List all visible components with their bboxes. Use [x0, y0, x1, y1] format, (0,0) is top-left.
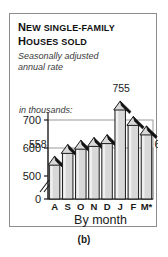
y-tick-label-0: 0	[35, 193, 41, 205]
y-tick-label-700: 700	[23, 114, 41, 126]
x-tick-label-J: J	[118, 201, 123, 212]
bar-highlight	[142, 135, 144, 198]
x-tick-label-F: F	[130, 201, 136, 212]
y-tick-labels-group: 7006005000	[23, 114, 41, 205]
x-tick-label-O: O	[77, 201, 84, 212]
figure-caption: (b)	[0, 234, 168, 245]
bar-highlight	[77, 149, 79, 198]
bar-highlight	[50, 165, 52, 198]
x-axis-title-group: By month	[74, 213, 127, 227]
value-label-J: 755	[112, 82, 130, 94]
bars-group	[48, 101, 157, 199]
value-label-A: 558	[29, 138, 47, 150]
figure-panel-b: NEW SINGLE-FAMILY HOUSES SOLD Seasonally…	[0, 0, 168, 257]
x-tick-label-D: D	[104, 201, 111, 212]
bar-chart: 7006005000 558755666 ASONDJFM* By month	[10, 14, 158, 228]
y-tick-label-500: 500	[23, 170, 41, 182]
chart-panel: NEW SINGLE-FAMILY HOUSES SOLD Seasonally…	[9, 13, 157, 227]
value-label-M*: 666	[154, 138, 158, 150]
x-tick-label-N: N	[91, 201, 98, 212]
x-axis-title: By month	[74, 213, 127, 227]
x-tick-label-A: A	[51, 201, 58, 212]
x-tick-label-S: S	[65, 201, 71, 212]
bar-highlight	[103, 144, 105, 198]
bar-highlight	[90, 146, 92, 198]
bar-highlight	[129, 125, 131, 198]
bar-highlight	[63, 153, 65, 198]
bar-highlight	[116, 110, 118, 198]
x-tick-labels-group: ASONDJFM*	[51, 201, 152, 212]
x-tick-label-M*: M*	[141, 201, 153, 212]
